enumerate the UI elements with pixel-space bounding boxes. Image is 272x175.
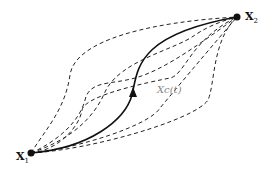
point-x1-label: X1 [16,150,29,165]
point-x2-marker [234,14,241,21]
arrow-head-icon [129,87,137,97]
point-x2-label: X2 [245,10,258,25]
diagram-canvas: X1 X2 Xc(t) [0,0,272,175]
paths-svg [0,0,272,175]
solid-curve [31,17,237,153]
curve-label: Xc(t) [157,84,182,95]
